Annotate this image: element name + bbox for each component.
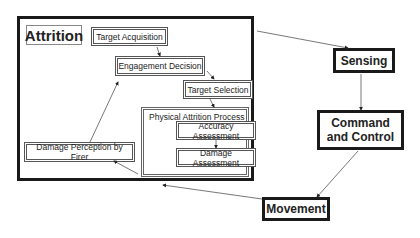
arrow-engagement-to-selection <box>207 71 214 79</box>
arrow-acq-to-engagement <box>157 47 160 56</box>
arrow-physical-to-perception <box>114 161 138 174</box>
arrow-c2-to-movement <box>317 151 358 197</box>
arrow-selection-to-physical <box>210 99 214 107</box>
arrow-perception-to-engagement <box>90 82 118 142</box>
arrow-attrition-to-sensing <box>257 31 348 48</box>
arrow-movement-to-attrition <box>163 185 262 199</box>
arrows-layer <box>0 0 420 238</box>
